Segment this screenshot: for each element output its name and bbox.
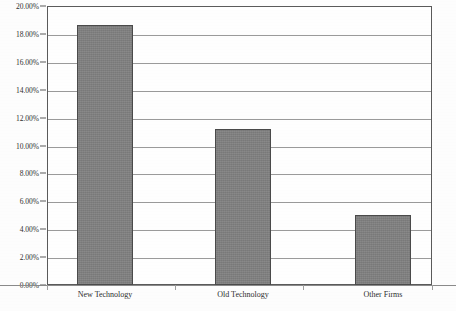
y-axis-tick	[40, 257, 46, 258]
y-axis-tick-label: 12.00%	[0, 113, 39, 122]
y-axis-tick-label: 8.00%	[0, 169, 39, 178]
y-axis-tick	[40, 6, 46, 7]
y-axis: 20.00% 18.00% 16.00% 14.00% 12.00% 10.00…	[0, 0, 47, 311]
bar-new-technology	[77, 25, 133, 285]
y-axis-tick-label: 14.00%	[0, 85, 39, 94]
y-axis-tick	[40, 173, 46, 174]
y-axis-tick	[40, 117, 46, 118]
x-axis-category-label: Old Technology	[217, 290, 269, 299]
x-axis-tick	[175, 285, 176, 290]
x-axis-category-label: New Technology	[78, 290, 133, 299]
y-axis-tick	[40, 61, 46, 62]
bar-chart: 20.00% 18.00% 16.00% 14.00% 12.00% 10.00…	[0, 0, 456, 311]
y-axis-tick-label: 2.00%	[0, 253, 39, 262]
bar-old-technology	[215, 129, 271, 285]
y-axis-tick-label: 6.00%	[0, 197, 39, 206]
x-axis	[0, 285, 456, 286]
y-axis-tick	[40, 201, 46, 202]
y-axis-tick	[40, 89, 46, 90]
y-axis-tick	[40, 145, 46, 146]
y-axis-tick-label: 18.00%	[0, 29, 39, 38]
y-axis-tick-label: 16.00%	[0, 57, 39, 66]
bar-other-firms	[355, 215, 411, 285]
bars-container	[47, 6, 432, 285]
x-axis-tick	[47, 285, 48, 290]
x-axis-category-label: Other Firms	[364, 290, 403, 299]
x-axis-tick	[432, 285, 433, 290]
y-axis-tick-label: 10.00%	[0, 141, 39, 150]
x-axis-tick	[303, 285, 304, 290]
y-axis-tick-label: 20.00%	[0, 2, 39, 11]
y-axis-tick	[40, 229, 46, 230]
y-axis-tick	[40, 33, 46, 34]
y-axis-tick-label: 4.00%	[0, 225, 39, 234]
